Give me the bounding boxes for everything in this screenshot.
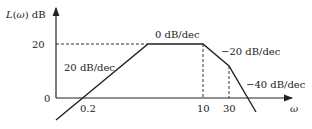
- x-tick-10: 10: [197, 103, 210, 114]
- y-tick-20: 20: [32, 39, 45, 50]
- x-axis-label: ω: [290, 103, 298, 114]
- y-tick-0: 0: [44, 93, 50, 104]
- bode-plot: L(ω) dB 20 0 0.2 10 30 ω 20 dB/dec 0 dB/…: [0, 0, 312, 129]
- x-tick-30: 30: [223, 103, 236, 114]
- slope-label-minus20: −20 dB/dec: [221, 46, 281, 57]
- slope-label-20: 20 dB/dec: [64, 62, 115, 73]
- slope-label-0: 0 dB/dec: [155, 29, 200, 40]
- slope-label-minus40: −40 dB/dec: [246, 79, 306, 90]
- y-axis-label: L(ω) dB: [5, 9, 46, 20]
- x-tick-0.2: 0.2: [80, 103, 96, 114]
